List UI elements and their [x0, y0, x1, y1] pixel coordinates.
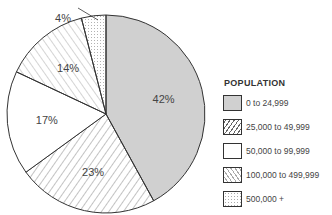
legend-label: 0 to 24,999: [246, 98, 289, 108]
legend-swatch-icon: [223, 191, 242, 207]
slice-label-4: 14%: [57, 62, 79, 74]
legend-label: 100,000 to 499,999: [246, 170, 319, 180]
legend-item: 100,000 to 499,999: [223, 167, 319, 183]
slice-label-1: 42%: [153, 93, 175, 105]
legend-item: 50,000 to 99,999: [223, 143, 319, 159]
legend-item: 0 to 24,999: [223, 95, 319, 111]
legend-item: 25,000 to 49,999: [223, 119, 319, 135]
legend-swatch-icon: [223, 95, 242, 111]
slice-label-3: 17%: [36, 114, 58, 126]
legend-label: 25,000 to 49,999: [246, 122, 310, 132]
legend-item: 500,000 +: [223, 191, 319, 207]
legend-swatch-icon: [223, 143, 242, 159]
legend: POPULATION 0 to 24,99925,000 to 49,99950…: [223, 78, 319, 215]
legend-label: 50,000 to 99,999: [246, 146, 310, 156]
pie-chart: [0, 0, 215, 215]
legend-swatch-icon: [223, 119, 242, 135]
legend-label: 500,000 +: [246, 194, 284, 204]
legend-swatch-icon: [223, 167, 242, 183]
legend-title: POPULATION: [224, 78, 319, 88]
slice-label-5: 4%: [55, 12, 71, 24]
slice-label-2: 23%: [82, 166, 104, 178]
